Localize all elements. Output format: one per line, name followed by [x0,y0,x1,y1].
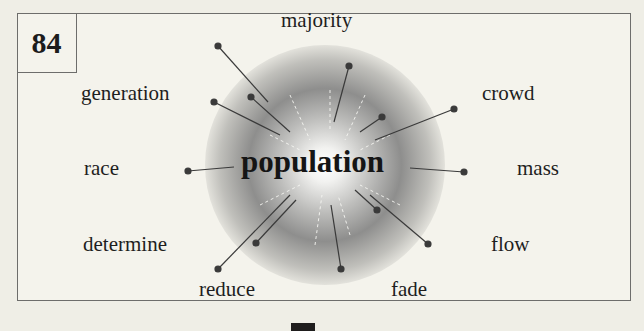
word-majority: majority [281,8,352,33]
word-crowd: crowd [482,81,534,106]
word-mass: mass [517,156,559,181]
word-race: race [84,156,119,181]
word-generation: generation [81,81,170,106]
page-tab-marker [291,323,315,331]
word-determine: determine [83,232,167,257]
central-word: population [241,144,384,180]
word-fade: fade [391,277,427,302]
word-reduce: reduce [199,277,255,302]
page-background: 84 populatio [0,0,644,331]
word-flow: flow [491,232,530,257]
